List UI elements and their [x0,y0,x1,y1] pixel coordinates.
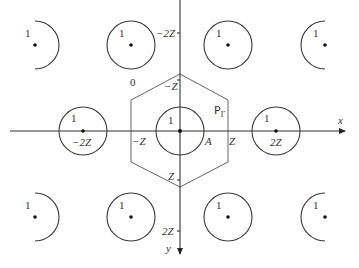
circle-label: 1 [25,27,31,39]
circle-label: 1 [313,27,319,39]
circle-label: 1 [313,199,319,211]
x-tick-label-neg2z: −2Z [72,136,92,148]
circle-label: 1 [71,112,77,124]
x-tick-label-2z: 2Z [270,136,283,148]
y-tick-label-2z: 2Z [162,225,175,237]
circle-mid-left-center [81,129,85,133]
circle-bottom-left-center [33,215,37,219]
circle-label: 1 [264,112,270,124]
circle-bottom-mid-right-center [226,215,230,219]
x-tick-label-z: Z [229,135,236,147]
circle-bottom-left-partial [35,193,59,241]
x-axis-label: x [337,114,343,126]
circle-label: 1 [119,199,125,211]
point-a-label: A [204,135,212,147]
lattice-diagram: 1 1 1 1 1 1 1 1 1 1 1 x y −2Z −Z Z 2Z −2… [0,0,359,268]
region-p-label: PΓ [214,104,226,119]
circle-top-mid-left-center [129,43,133,47]
circle-label: 1 [168,114,174,126]
circle-top-left-center [33,43,37,47]
circle-label: 1 [25,199,31,211]
x-tick-label-negz: −Z [132,135,146,147]
region-p-sub: Γ [221,110,226,119]
circle-label: 1 [216,27,222,39]
circle-bottom-mid-left-center [129,215,133,219]
circle-mid-right-center [274,129,278,133]
y-tick-label-negz: −Z [164,80,178,92]
zero-label: 0 [130,76,136,88]
y-axis-label: y [165,242,171,254]
y-tick-label-z: Z [168,170,175,182]
circle-label: 1 [216,199,222,211]
circle-bottom-right-center [323,215,327,219]
y-tick-label-neg2z: −2Z [156,27,176,39]
circle-top-right-center [323,43,327,47]
circle-top-left-partial [35,21,59,69]
circle-top-mid-right-center [226,43,230,47]
circle-center-center [178,129,182,133]
circle-label: 1 [119,27,125,39]
